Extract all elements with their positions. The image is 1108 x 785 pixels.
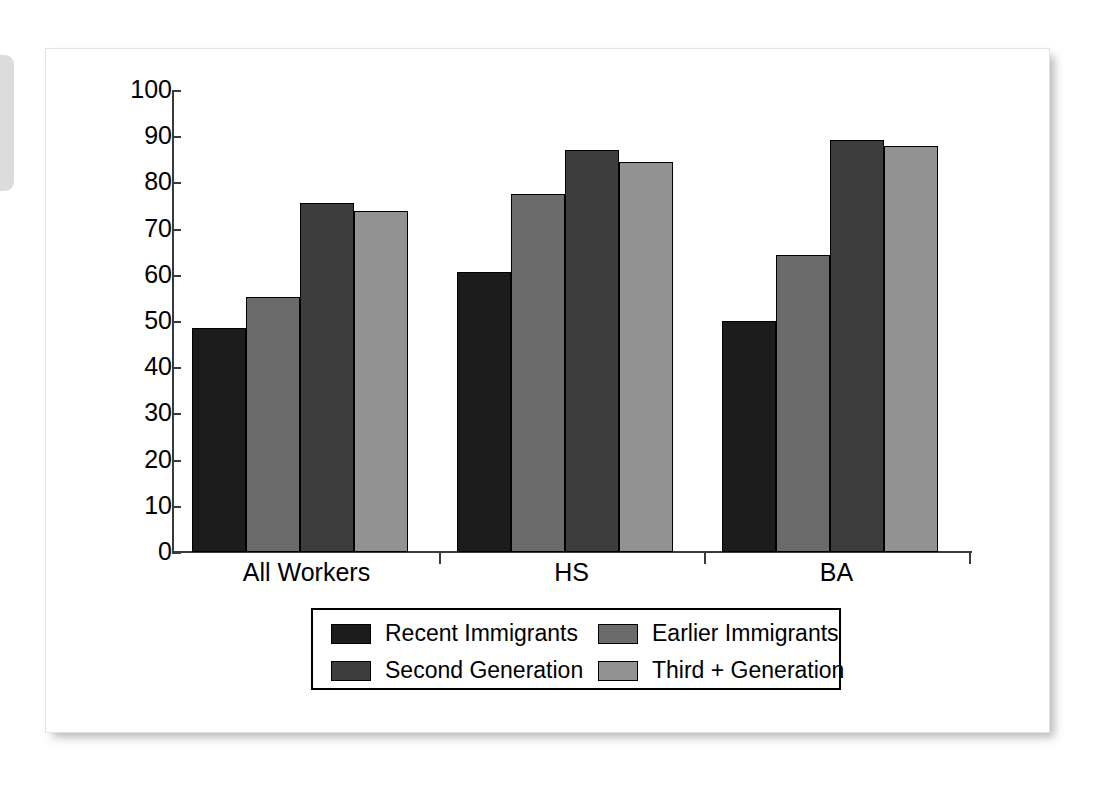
legend-label-third-generation: Third + Generation [652,657,844,684]
legend-label-second-generation: Second Generation [385,657,583,684]
bar [354,211,408,552]
bar [300,203,354,552]
chart-legend: Recent Immigrants Earlier Immigrants Sec… [311,608,841,690]
y-tick-label: 90 [112,123,172,148]
y-tick-label: 80 [112,169,172,194]
y-tick-label: 10 [112,493,172,518]
y-tick-label: 0 [112,539,172,564]
y-axis-line [172,90,174,553]
y-tick-label: 100 [112,77,172,102]
bar-chart: 0102030405060708090100 All WorkersHSBA R… [0,0,1108,785]
bar [511,194,565,552]
legend-item-0: Recent Immigrants [331,620,578,647]
legend-item-2: Second Generation [331,657,583,684]
x-axis-label-hs: HS [439,558,704,587]
legend-label-earlier-immigrants: Earlier Immigrants [652,620,839,647]
bar [619,162,673,552]
legend-item-1: Earlier Immigrants [598,620,839,647]
y-tick-label: 40 [112,354,172,379]
legend-swatch-earlier-immigrants [598,624,638,644]
y-tick-label: 20 [112,447,172,472]
y-tick-label: 50 [112,308,172,333]
legend-swatch-third-generation [598,661,638,681]
bar [192,328,246,552]
x-tick-mark [969,553,971,564]
legend-item-3: Third + Generation [598,657,844,684]
legend-swatch-second-generation [331,661,371,681]
bar [722,321,776,552]
x-axis-label-all-workers: All Workers [174,558,439,587]
bar [776,255,830,552]
bar [884,146,938,552]
bar [457,272,511,552]
x-axis-label-ba: BA [704,558,969,587]
bar [830,140,884,552]
bar [246,297,300,552]
legend-label-recent-immigrants: Recent Immigrants [385,620,578,647]
y-tick-label: 60 [112,262,172,287]
y-tick-label: 30 [112,400,172,425]
bar [565,150,619,552]
legend-swatch-recent-immigrants [331,624,371,644]
y-tick-label: 70 [112,216,172,241]
